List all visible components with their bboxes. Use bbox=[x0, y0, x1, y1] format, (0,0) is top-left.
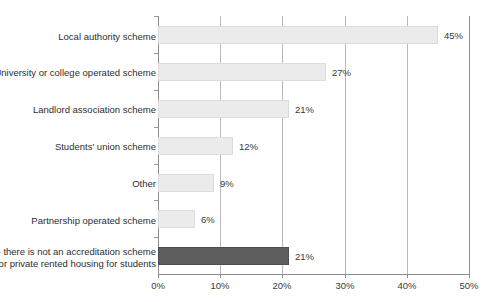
horizontal-bar-chart: Local authority scheme University or col… bbox=[0, 0, 490, 302]
value-label-university-or-college-operated-scheme: 27% bbox=[332, 68, 351, 78]
bar-other bbox=[158, 174, 214, 192]
bar-no-accreditation-scheme bbox=[158, 247, 289, 265]
category-label-other: Other bbox=[132, 178, 156, 189]
x-tick-50 bbox=[469, 274, 470, 278]
category-label-no-accreditation-scheme-line1: No - there is not an accreditation schem… bbox=[0, 246, 156, 257]
category-label-landlord-association-scheme: Landlord association scheme bbox=[33, 104, 156, 115]
gridline-30-percent bbox=[345, 16, 346, 274]
x-axis-baseline bbox=[158, 274, 470, 275]
value-label-local-authority-scheme: 45% bbox=[444, 31, 463, 41]
category-label-university-or-college-operated-scheme: University or college operated scheme bbox=[0, 67, 156, 78]
value-label-students-union-scheme: 12% bbox=[239, 142, 258, 152]
category-label-students-union-scheme: Students' union scheme bbox=[55, 141, 156, 152]
bar-partnership-operated-scheme bbox=[158, 210, 195, 228]
gridline-50-percent bbox=[469, 16, 470, 274]
plot-area bbox=[158, 16, 469, 274]
value-label-partnership-operated-scheme: 6% bbox=[201, 215, 215, 225]
x-tick-0 bbox=[158, 274, 159, 278]
x-tick-40 bbox=[407, 274, 408, 278]
category-label-partnership-operated-scheme: Partnership operated scheme bbox=[31, 215, 156, 226]
x-tick-30 bbox=[345, 274, 346, 278]
x-axis-label-10-percent: 10% bbox=[210, 280, 229, 291]
x-axis-label-30-percent: 30% bbox=[335, 280, 354, 291]
gridline-40-percent bbox=[407, 16, 408, 274]
value-label-other: 9% bbox=[220, 179, 234, 189]
x-axis-label-40-percent: 40% bbox=[397, 280, 416, 291]
bar-landlord-association-scheme bbox=[158, 100, 289, 118]
x-axis-label-50-percent: 50% bbox=[459, 280, 478, 291]
x-tick-20 bbox=[282, 274, 283, 278]
category-label-no-accreditation-scheme-line2: for private rented housing for students bbox=[0, 258, 156, 269]
x-axis-label-20-percent: 20% bbox=[272, 280, 291, 291]
value-label-landlord-association-scheme: 21% bbox=[295, 105, 314, 115]
gridline-20-percent bbox=[282, 16, 283, 274]
value-label-no-accreditation-scheme: 21% bbox=[295, 252, 314, 262]
bar-local-authority-scheme bbox=[158, 26, 438, 44]
x-axis-label-0-percent: 0% bbox=[151, 280, 165, 291]
x-tick-10 bbox=[220, 274, 221, 278]
bar-students-union-scheme bbox=[158, 137, 233, 155]
category-label-local-authority-scheme: Local authority scheme bbox=[58, 31, 156, 42]
bar-university-or-college-operated-scheme bbox=[158, 63, 326, 81]
